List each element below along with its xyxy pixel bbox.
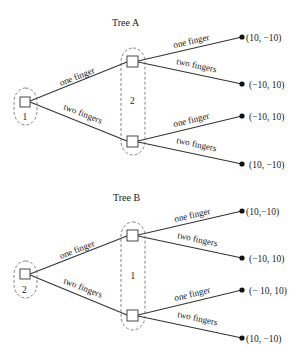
tree-b-root-node [20, 269, 30, 279]
tree-a-second-player: 2 [130, 96, 135, 106]
tree-b-root-player: 2 [22, 285, 27, 295]
tree-a-second-node-bottom [127, 136, 138, 147]
tree-a-terminal-1 [239, 34, 244, 39]
tree-a-root-node [20, 97, 30, 107]
tree-a-payoff-3: (−10, 10) [249, 112, 284, 123]
tree-b-payoff-2: (−10, 10) [249, 254, 284, 265]
tree-b-terminal-4 [239, 335, 244, 340]
tree-a-payoff-1: (10, −10) [246, 33, 281, 44]
tree-b-bottom-label-one: one finger [173, 285, 211, 303]
tree-a-bottom-label-one: one finger [172, 111, 210, 129]
tree-a-root-label-two: two fingers [62, 102, 104, 126]
tree-b-terminal-1 [239, 208, 244, 213]
tree-a-top-label-one: one finger [172, 32, 210, 50]
tree-b-title: Tree B [113, 192, 140, 203]
tree-a-terminal-2 [239, 81, 244, 86]
tree-a-edge-root-one [30, 62, 127, 101]
tree-a-root-label-one: one finger [58, 65, 96, 88]
tree-a: Tree A 1 2 one finger two fingers one fi… [14, 17, 284, 171]
tree-b-bottom-label-two: two fingers [177, 309, 219, 327]
tree-b-edge-root-one [30, 236, 127, 274]
tree-a-terminal-4 [239, 161, 244, 166]
tree-b-top-label-one: one finger [173, 206, 211, 224]
tree-b-payoff-1: (10,−10) [246, 207, 279, 218]
tree-b-terminal-2 [239, 255, 244, 260]
tree-b-payoff-4: (10, −10) [246, 334, 281, 345]
tree-a-terminal-3 [239, 113, 244, 118]
game-trees-diagram: Tree A 1 2 one finger two fingers one fi… [0, 0, 307, 351]
tree-b-root-label-two: two fingers [62, 276, 104, 300]
tree-a-payoff-4: (10, −10) [249, 160, 284, 171]
tree-b: Tree B 2 1 one finger two fingers one fi… [14, 192, 287, 345]
tree-a-second-node-top [127, 56, 138, 67]
tree-a-payoff-2: (−10, 10) [249, 80, 284, 91]
tree-b-second-player: 1 [131, 271, 136, 281]
tree-b-terminal-3 [239, 287, 244, 292]
tree-b-payoff-3: (− 10, 10) [249, 286, 287, 297]
tree-b-second-node-bottom [127, 310, 138, 321]
tree-a-root-player: 1 [23, 112, 28, 122]
tree-a-title: Tree A [112, 17, 140, 28]
tree-b-second-node-top [127, 230, 138, 241]
tree-b-root-label-one: one finger [58, 238, 96, 261]
